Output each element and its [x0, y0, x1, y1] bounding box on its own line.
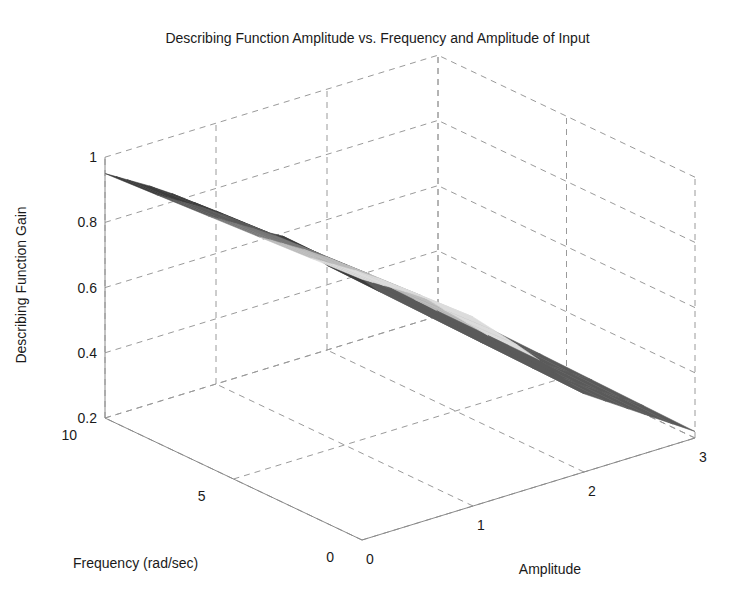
- frequency-tick-label: 5: [198, 488, 206, 504]
- surface-patch: [333, 264, 407, 291]
- z-tick-label: 0.4: [78, 345, 98, 361]
- surface-patch: [230, 222, 304, 249]
- z-tick-label: 1: [89, 149, 97, 165]
- surface-plot: 0.20.40.60.8105100123Describing Function…: [0, 0, 755, 609]
- surface-patch: [577, 383, 651, 416]
- amplitude-tick-label: 0: [366, 551, 374, 567]
- frequency-axis-line: [105, 418, 362, 540]
- grid-line: [438, 186, 695, 308]
- z-axis-label: Describing Function Gain: [13, 206, 29, 363]
- surface-patch: [437, 311, 511, 352]
- grid-line: [105, 316, 438, 418]
- surface-patch: [599, 391, 673, 424]
- grid-line: [105, 55, 438, 157]
- grid-line: [234, 377, 567, 479]
- surface-patch: [281, 243, 355, 270]
- surface-patch: [179, 201, 253, 228]
- grid-line: [105, 120, 438, 222]
- grid-line: [216, 384, 473, 506]
- frequency-axis-label: Frequency (rad/sec): [73, 555, 198, 571]
- surface-patch: [466, 322, 540, 360]
- z-tick-label: 0.6: [78, 280, 98, 296]
- surface-patch: [621, 398, 695, 431]
- amplitude-tick-label: 1: [477, 517, 485, 533]
- z-tick-label: 0.8: [78, 214, 98, 230]
- grid-line: [438, 55, 695, 177]
- axis-labels: 0.20.40.60.8105100123Describing Function…: [13, 149, 707, 577]
- frequency-tick-label: 0: [326, 549, 334, 565]
- surface: [105, 173, 695, 431]
- surface-patch: [385, 286, 459, 326]
- amplitude-tick-label: 3: [699, 449, 707, 465]
- grid-line: [105, 316, 438, 418]
- amplitude-tick-label: 2: [588, 483, 596, 499]
- grid-line: [438, 120, 695, 242]
- surface-patch: [488, 336, 562, 378]
- frequency-tick-label: 10: [61, 427, 77, 443]
- amplitude-axis-line: [362, 438, 695, 540]
- z-tick-label: 0.2: [78, 410, 98, 426]
- axes: [105, 157, 695, 540]
- surface-patch: [127, 180, 201, 207]
- grid-line: [105, 251, 438, 353]
- amplitude-axis-label: Amplitude: [519, 561, 581, 577]
